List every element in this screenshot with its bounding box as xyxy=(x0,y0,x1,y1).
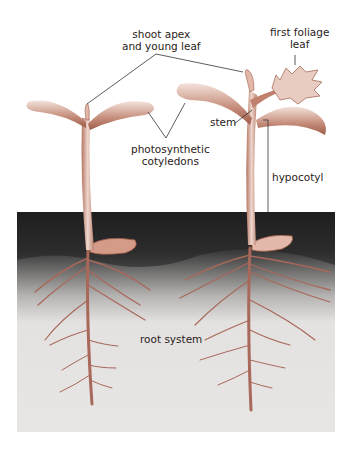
label-shoot-apex: shoot apex and young leaf xyxy=(122,28,201,52)
cotyledon-right-2 xyxy=(256,107,326,135)
label-cotyledons: photosynthetic cotyledons xyxy=(131,143,210,167)
label-stem: stem xyxy=(210,116,236,128)
seedling-diagram xyxy=(0,0,352,456)
label-first-foliage-leaf: first foliage leaf xyxy=(270,26,329,50)
leader-lines xyxy=(87,54,295,212)
cotyledon-left-1 xyxy=(27,101,87,128)
label-root-system: root system xyxy=(140,333,202,345)
shoot-apex-right xyxy=(245,70,254,92)
first-foliage-leaf xyxy=(272,66,322,104)
shoot-apex-left xyxy=(85,104,89,120)
cotyledon-left-2 xyxy=(88,101,154,130)
stem-right xyxy=(250,90,277,108)
label-hypocotyl: hypocotyl xyxy=(272,171,323,183)
